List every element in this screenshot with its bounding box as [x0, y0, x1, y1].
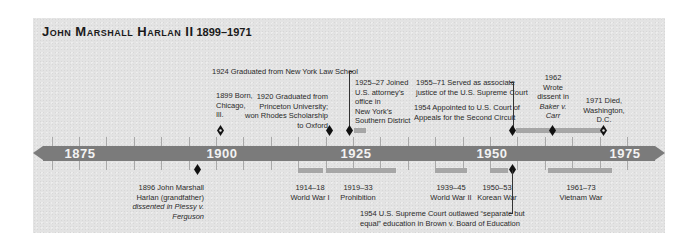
duration-korea — [490, 168, 508, 173]
diamond-marker-icon — [194, 164, 201, 175]
event-justice-line: 1955–71 Served as associate — [416, 78, 509, 88]
event-attorney-line: Southern District — [355, 116, 410, 126]
diamond-marker-icon — [509, 125, 516, 136]
event-plessy-line: Harlan (grandfather) — [120, 193, 204, 203]
event-plessy-line: 1896 John Marshall — [120, 183, 204, 193]
event-appeals-line: 1954 Appointed to U.S. Court of — [414, 103, 509, 113]
event-princeton-line: Princeton University; — [244, 102, 328, 112]
event-brown-line: 1954 U.S. Supreme Court outlawed “separa… — [360, 209, 508, 219]
diamond-marker-icon — [346, 125, 353, 136]
event-ww2-line: 1939–45 — [430, 183, 471, 193]
leader-line — [349, 71, 350, 129]
event-baker-line: Wrote — [537, 83, 569, 93]
duration-vietnam — [548, 168, 612, 173]
event-vietnam: 1961–73 Vietnam War — [560, 183, 603, 202]
duration-ww2 — [435, 168, 467, 173]
axis-label-1900: 1900 — [207, 146, 238, 161]
event-princeton: 1920 Graduated from Princeton University… — [244, 92, 328, 130]
leader-line — [512, 170, 513, 213]
open-diamond-icon — [217, 125, 224, 136]
duration-prohibition — [326, 168, 396, 173]
event-vietnam-line: Vietnam War — [560, 193, 603, 203]
event-justice-line: justice of the U.S. Supreme Court — [416, 88, 509, 98]
duration-attorney — [354, 128, 366, 133]
axis-label-1875: 1875 — [65, 146, 96, 161]
event-attorney-line: U.S. attorney’s — [355, 88, 410, 98]
event-korea: 1950–53 Korean War — [477, 183, 517, 202]
event-brown: 1954 U.S. Supreme Court outlawed “separa… — [360, 209, 508, 228]
event-vietnam-line: 1961–73 — [560, 183, 603, 193]
axis-label-1950: 1950 — [477, 146, 508, 161]
event-brown-line: equal” education in Brown v. Board of Ed… — [360, 219, 508, 229]
event-prohibition-line: Prohibition — [340, 193, 375, 203]
event-attorney: 1925–27 Joined U.S. attorney’s office in… — [355, 78, 410, 126]
event-ww1-line: World War I — [290, 193, 329, 203]
event-died-line: Washington, — [583, 106, 624, 116]
event-princeton-line: to Oxford — [244, 121, 328, 131]
event-princeton-line: won Rhodes Scholarship — [244, 111, 328, 121]
event-appeals: 1954 Appointed to U.S. Court of Appeals … — [414, 103, 509, 122]
event-died: 1971 Died, Washington, D.C. — [583, 96, 624, 125]
event-baker: 1962 Wrote dissent in Baker v. Carr — [537, 73, 569, 121]
duration-justice — [516, 128, 603, 133]
duration-ww1 — [298, 168, 323, 173]
event-attorney-line: 1925–27 Joined — [355, 78, 410, 88]
event-baker-line: 1962 — [537, 73, 569, 83]
event-princeton-line: 1920 Graduated from — [244, 92, 328, 102]
arrow-left-icon — [33, 146, 43, 160]
event-prohibition: 1919–33 Prohibition — [340, 183, 375, 202]
event-ww1-line: 1914–18 — [290, 183, 329, 193]
event-prohibition-line: 1919–33 — [340, 183, 375, 193]
title-years: 1899–1971 — [197, 26, 252, 38]
event-law-school: 1924 Graduated from New York Law School — [212, 67, 358, 77]
axis-label-1925: 1925 — [341, 146, 372, 161]
title-name: John Marshall Harlan II — [42, 24, 194, 39]
case-name-italic: Carr — [546, 111, 561, 120]
event-korea-line: Korean War — [477, 193, 517, 203]
event-ww2: 1939–45 World War II — [430, 183, 471, 202]
axis-label-1975: 1975 — [610, 146, 641, 161]
event-attorney-line: office in — [355, 97, 410, 107]
event-ww2-line: World War II — [430, 193, 471, 203]
event-attorney-line: New York’s — [355, 107, 410, 117]
event-justice: 1955–71 Served as associate justice of t… — [416, 78, 509, 97]
event-plessy: 1896 John Marshall Harlan (grandfather) … — [120, 183, 204, 221]
diamond-marker-icon — [326, 125, 333, 136]
event-korea-line: 1950–53 — [477, 183, 517, 193]
diamond-marker-icon — [549, 125, 556, 136]
case-name-italic: Baker v. — [540, 102, 567, 111]
event-appeals-line: Appeals for the Second Circuit — [414, 113, 509, 123]
event-plessy-line: dissented in Plessy v. — [132, 202, 204, 211]
event-died-line: 1971 Died, — [583, 96, 624, 106]
arrow-right-icon — [655, 146, 665, 160]
event-ww1: 1914–18 World War I — [290, 183, 329, 202]
case-name-italic: Ferguson — [172, 212, 204, 221]
open-diamond-icon — [600, 125, 607, 136]
event-died-line: D.C. — [583, 115, 624, 125]
timeline-title: John Marshall Harlan II1899–1971 — [42, 24, 252, 39]
event-baker-line: dissent in — [537, 92, 569, 102]
